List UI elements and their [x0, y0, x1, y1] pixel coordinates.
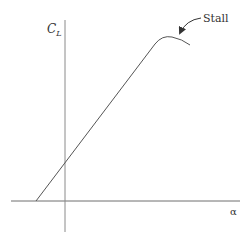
- stall-annotation: Stall: [203, 12, 229, 25]
- lift-curve: [36, 37, 190, 201]
- y-axis-label: CL: [47, 22, 62, 38]
- x-axis-label: α: [230, 206, 237, 217]
- lift-curve-diagram: CL α Stall: [0, 0, 251, 241]
- stall-arrow: [180, 18, 201, 33]
